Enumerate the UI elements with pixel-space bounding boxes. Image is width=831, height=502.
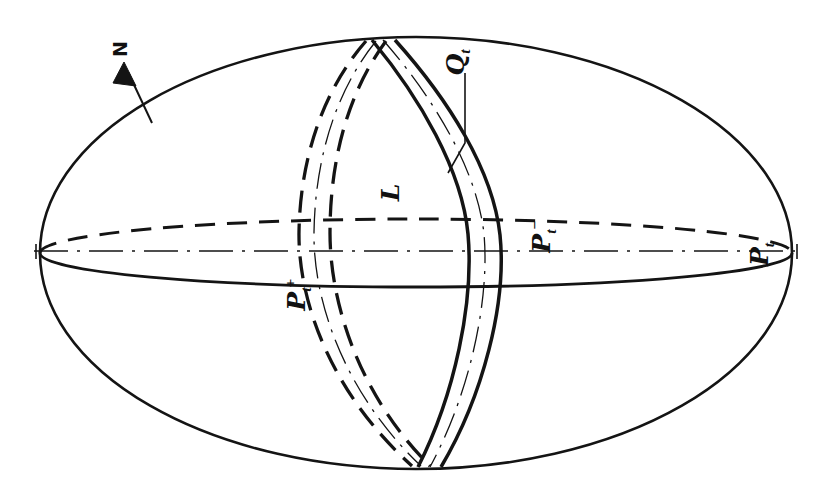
sphere-band-diagram bbox=[0, 0, 831, 502]
meridian-band-back-centerline bbox=[314, 41, 421, 466]
plane-Pt-minus-label: Pt− bbox=[526, 221, 559, 253]
band-Qt-glyph: Q bbox=[441, 54, 470, 76]
meridian-band-front-edge-inner bbox=[372, 40, 469, 467]
plane-Pt-plus-label: Pt+ bbox=[281, 279, 314, 311]
meridian-band-back-edge-outer bbox=[299, 41, 412, 466]
equator-front-solid bbox=[40, 253, 792, 287]
region-L-glyph: L bbox=[376, 184, 405, 202]
meridian-band-back-edge-inner bbox=[330, 41, 430, 466]
plane-Pt-minus-superscript: − bbox=[526, 221, 543, 230]
equator-back-dashed bbox=[40, 219, 792, 253]
plane-Pt-plus-glyph: P bbox=[282, 292, 311, 311]
north-arrow-head bbox=[113, 62, 136, 86]
band-Qt-label: Qt bbox=[441, 49, 474, 75]
plane-Pt-glyph: P bbox=[745, 247, 774, 266]
plane-Pt-plus-subscript: t bbox=[297, 288, 314, 292]
plane-Pt-plus-superscript: + bbox=[281, 279, 298, 288]
figure-root: N Qt L Pt+ Pt− Pt bbox=[0, 0, 831, 502]
plane-Pt-subscript: t bbox=[760, 243, 777, 247]
plane-Pt-label: Pt bbox=[745, 243, 778, 266]
plane-Pt-minus-glyph: P bbox=[527, 234, 556, 253]
band-Qt-subscript: t bbox=[456, 49, 473, 53]
plane-Pt-minus-subscript: t bbox=[542, 230, 559, 234]
north-direction-label: N bbox=[109, 41, 131, 57]
region-L-label: L bbox=[376, 184, 405, 202]
